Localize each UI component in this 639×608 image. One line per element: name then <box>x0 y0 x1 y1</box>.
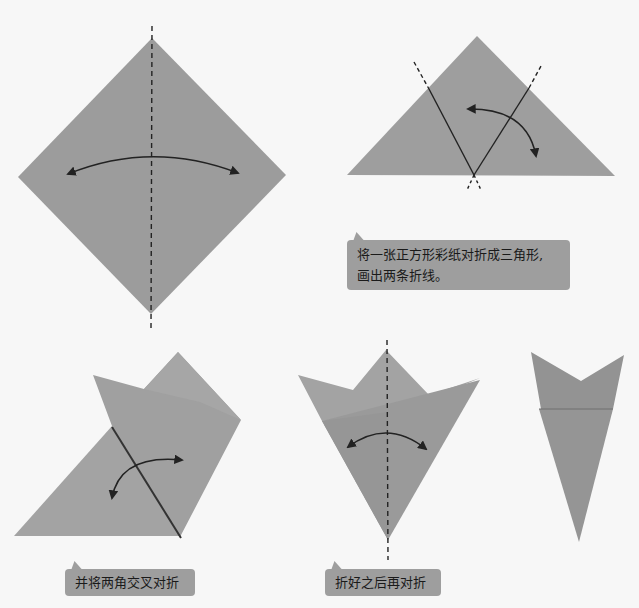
caption-line-1: 并将两角交叉对折 <box>75 572 185 593</box>
origami-diagram <box>0 0 639 608</box>
step-2-caption: 将一张正方形彩纸对折成三角形, 画出两条折线。 <box>347 240 570 290</box>
step-1-figure <box>18 26 286 328</box>
step-2-figure <box>347 36 615 190</box>
triangle-paper <box>347 36 615 176</box>
caption-line-1: 将一张正方形彩纸对折成三角形, <box>357 244 560 265</box>
caption-line-2: 画出两条折线。 <box>357 265 560 286</box>
caption-line-1: 折好之后再对折 <box>335 572 431 593</box>
final-cone-body <box>539 409 613 542</box>
crease-dashed-right-top <box>529 66 541 88</box>
step-4-caption: 折好之后再对折 <box>325 569 441 596</box>
step-5-figure <box>531 352 624 542</box>
step-4-figure <box>298 340 480 560</box>
step-3-figure <box>14 352 241 538</box>
step-3-caption: 并将两角交叉对折 <box>65 569 195 596</box>
final-top-notch <box>531 352 624 409</box>
diamond-paper <box>18 38 286 314</box>
crease-dashed-bottom-right <box>474 175 481 190</box>
crease-dashed-bottom-left <box>467 175 474 190</box>
crease-dashed-left-top <box>414 62 429 89</box>
cone-left-shade <box>322 412 388 540</box>
